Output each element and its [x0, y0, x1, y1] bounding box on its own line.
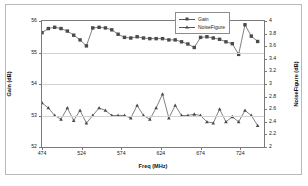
data-point-gain [256, 40, 259, 43]
data-point-gain [72, 33, 75, 36]
legend-label-gain: Gain [198, 17, 209, 22]
data-point-noisefigure [173, 104, 177, 107]
legend-item-gain: Gain [179, 15, 225, 23]
y-axis-right-tick [264, 147, 267, 148]
data-point-gain [47, 27, 50, 30]
data-point-gain [85, 44, 88, 47]
y-axis-right-title: NoiseFigure (dB) [293, 61, 299, 106]
data-point-gain [142, 36, 145, 39]
y-axis-left-tick-label: 53 [31, 113, 37, 118]
y-axis-right-tick-label: 2.2 [269, 132, 276, 137]
noisefigure-legend-swatch [179, 27, 195, 28]
chart-figure: Gain (dB) NoiseFigure (dB) Freq (MHz) 52… [0, 0, 308, 186]
x-axis-tick-label: 624 [157, 151, 166, 156]
data-point-gain [205, 35, 208, 38]
data-point-gain [161, 37, 164, 40]
data-point-gain [193, 46, 196, 49]
data-point-noisefigure [59, 117, 63, 120]
data-point-gain [53, 26, 56, 29]
y-axis-right-tick-label: 3.8 [269, 31, 276, 36]
y-axis-left-tick-label: 54 [31, 81, 37, 86]
data-point-noisefigure [218, 107, 222, 110]
data-point-gain [154, 37, 157, 40]
y-axis-left-tick [39, 116, 42, 117]
gridline [42, 116, 264, 117]
y-axis-right-tick-label: 3.4 [269, 56, 276, 61]
data-point-gain [218, 38, 221, 41]
y-axis-right-tick [264, 34, 267, 35]
y-axis-right-tick-label: 2 [269, 144, 272, 149]
data-point-gain [224, 40, 227, 43]
data-point-gain [243, 23, 246, 26]
x-axis-tick-label: 474 [38, 151, 47, 156]
data-point-gain [174, 38, 177, 41]
data-point-gain [59, 27, 62, 30]
data-point-gain [116, 33, 119, 36]
data-point-gain [123, 36, 126, 39]
y-axis-right-tick [264, 21, 267, 22]
y-axis-right-tick-label: 3.6 [269, 44, 276, 49]
legend-label-noisefigure: NoiseFigure [198, 25, 225, 30]
y-axis-right-tick [264, 109, 267, 110]
y-axis-left-tick [39, 21, 42, 22]
y-axis-right-tick-label: 4 [269, 18, 272, 23]
data-point-gain [148, 37, 151, 40]
y-axis-left-tick-label: 55 [31, 50, 37, 55]
y-axis-right-tick-label: 3 [269, 81, 272, 86]
y-axis-right-tick-label: 2.4 [269, 119, 276, 124]
y-axis-left-tick-label: 52 [31, 144, 37, 149]
data-point-noisefigure [78, 109, 82, 112]
y-axis-left-tick [39, 84, 42, 85]
data-point-gain [231, 42, 234, 45]
gain-legend-swatch [179, 19, 195, 20]
plot-area: 5253545556 22.22.42.62.833.23.43.63.84 4… [41, 20, 265, 148]
data-point-gain [104, 26, 107, 29]
y-axis-right-tick [264, 59, 267, 60]
x-axis-tick-label: 574 [117, 151, 126, 156]
data-point-gain [250, 34, 253, 37]
data-point-noisefigure [167, 116, 171, 119]
chart-legend: Gain NoiseFigure [175, 12, 230, 34]
gridline [42, 84, 264, 85]
data-point-gain [212, 36, 215, 39]
data-point-noisefigure [66, 106, 70, 109]
y-axis-right-tick [264, 46, 267, 47]
data-point-noisefigure [148, 117, 152, 120]
data-point-gain [199, 36, 202, 39]
y-axis-right-tick [264, 84, 267, 85]
gridline [42, 53, 264, 54]
data-point-gain [129, 36, 132, 39]
data-point-noisefigure [154, 106, 158, 109]
y-axis-left-tick-label: 56 [31, 18, 37, 23]
y-axis-left-tick [39, 53, 42, 54]
data-point-gain [167, 38, 170, 41]
y-axis-right-tick [264, 122, 267, 123]
data-point-gain [91, 26, 94, 29]
y-axis-right-tick-label: 2.6 [269, 107, 276, 112]
x-axis-tick-label: 524 [77, 151, 86, 156]
data-point-noisefigure [243, 109, 247, 112]
data-point-gain [97, 26, 100, 29]
y-axis-right-tick [264, 97, 267, 98]
data-point-gain [78, 38, 81, 41]
data-point-noisefigure [161, 92, 165, 95]
legend-item-noisefigure: NoiseFigure [179, 23, 225, 31]
data-point-noisefigure [97, 106, 101, 109]
data-point-noisefigure [135, 104, 139, 107]
y-axis-right-tick-label: 3.2 [269, 69, 276, 74]
x-axis-tick-label: 724 [236, 151, 245, 156]
data-point-gain [180, 40, 183, 43]
data-point-gain [66, 29, 69, 32]
x-axis-title: Freq (MHz) [139, 163, 168, 169]
y-axis-right-tick [264, 134, 267, 135]
data-point-gain [42, 31, 44, 34]
data-point-gain [110, 28, 113, 31]
data-point-gain [186, 42, 189, 45]
y-axis-right-tick [264, 71, 267, 72]
y-axis-left-title: Gain (dB) [6, 71, 12, 96]
y-axis-right-tick-label: 2.8 [269, 94, 276, 99]
data-point-gain [135, 35, 138, 38]
x-axis-tick-label: 674 [196, 151, 205, 156]
